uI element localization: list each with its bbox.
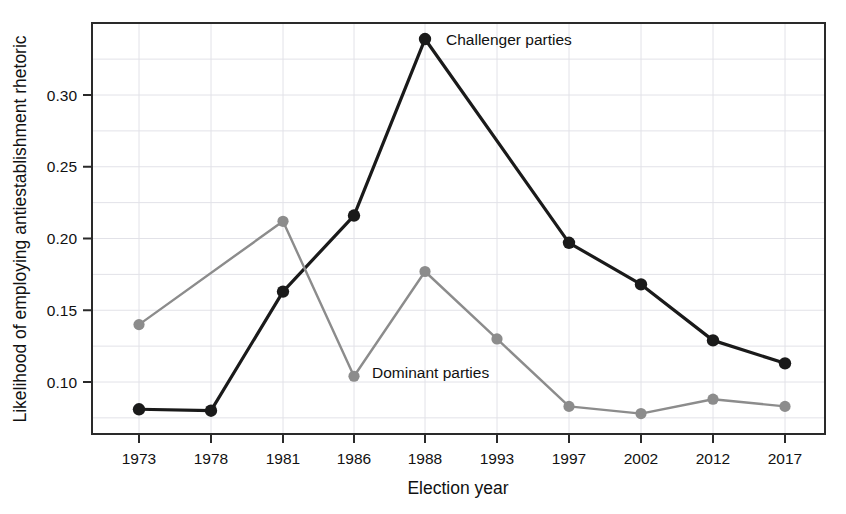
data-point-challenger-1986 [348,209,360,221]
y-tick-label: 0.25 [47,158,77,175]
x-tick-label: 1993 [480,450,514,467]
data-point-dominant-1997 [563,401,574,412]
data-point-challenger-1978 [205,405,217,417]
data-point-challenger-1981 [277,285,289,297]
chart-figure: 0.100.150.200.250.30 1973197819811986198… [0,0,846,514]
x-tick-label: 1973 [122,450,156,467]
data-point-dominant-1981 [277,216,288,227]
x-tick-label: 1986 [337,450,371,467]
x-tick-label: 1978 [194,450,228,467]
y-axis-title: Likelihood of employing antiestablishmen… [10,35,30,422]
x-tick-label: 1981 [266,450,300,467]
data-point-challenger-1988 [419,33,431,45]
y-axis-ticks: 0.100.150.200.250.30 [47,87,92,391]
data-point-dominant-1988 [419,266,430,277]
series-label-challenger: Challenger parties [446,31,572,48]
data-point-challenger-2002 [635,278,647,290]
y-tick-label: 0.15 [47,302,77,319]
data-point-challenger-1973 [133,403,145,415]
series-label-dominant: Dominant parties [372,364,489,381]
data-point-challenger-1997 [563,237,575,249]
data-point-dominant-2012 [707,394,718,405]
x-axis-ticks: 1973197819811986198819931997200220122017 [122,434,802,467]
x-tick-label: 2017 [768,450,802,467]
x-axis-title: Election year [407,478,508,498]
y-tick-label: 0.20 [47,230,78,247]
y-tick-label: 0.30 [47,87,78,104]
line-chart: 0.100.150.200.250.30 1973197819811986198… [0,0,846,514]
series-line-dominant [139,221,785,413]
data-point-dominant-2002 [635,408,646,419]
data-point-dominant-1973 [133,319,144,330]
data-point-dominant-1986 [348,371,359,382]
y-tick-label: 0.10 [47,374,78,391]
data-point-challenger-2017 [779,357,791,369]
x-tick-label: 1988 [408,450,442,467]
x-tick-label: 2002 [624,450,658,467]
x-tick-label: 2012 [696,450,730,467]
x-tick-label: 1997 [552,450,586,467]
data-point-challenger-2012 [707,334,719,346]
data-point-dominant-2017 [779,401,790,412]
data-point-dominant-1993 [491,333,502,344]
